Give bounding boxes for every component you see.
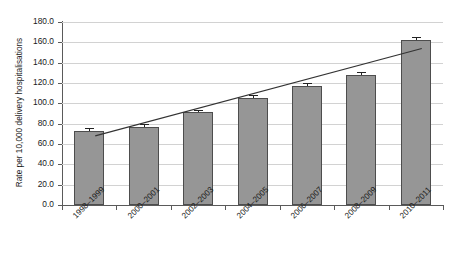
y-tick-mark xyxy=(58,185,62,186)
gridline xyxy=(62,22,443,23)
y-tick-label: 180.0 xyxy=(14,17,54,26)
x-tick-mark xyxy=(443,205,444,210)
x-tick-mark xyxy=(225,205,226,210)
x-tick-mark xyxy=(280,205,281,210)
y-tick-label: 160.0 xyxy=(14,37,54,46)
plot-area xyxy=(62,22,443,205)
error-bar-cap xyxy=(249,95,258,96)
y-tick-label: 80.0 xyxy=(14,119,54,128)
y-tick-mark xyxy=(58,124,62,125)
y-tick-label: 140.0 xyxy=(14,58,54,67)
error-bar-cap xyxy=(412,37,421,38)
chart-container: Rate per 10,000 delivery hospitalisation… xyxy=(0,0,457,262)
x-tick-mark xyxy=(389,205,390,210)
x-tick-mark xyxy=(171,205,172,210)
y-tick-mark xyxy=(58,164,62,165)
gridline xyxy=(62,63,443,64)
x-tick-mark xyxy=(62,205,63,210)
bar xyxy=(401,40,431,205)
x-tick-mark xyxy=(334,205,335,210)
x-tick-mark xyxy=(116,205,117,210)
y-tick-label: 20.0 xyxy=(14,180,54,189)
y-tick-mark xyxy=(58,144,62,145)
error-bar-cap xyxy=(140,124,149,125)
y-tick-label: 60.0 xyxy=(14,139,54,148)
y-tick-label: 120.0 xyxy=(14,78,54,87)
gridline xyxy=(62,83,443,84)
y-tick-mark xyxy=(58,83,62,84)
error-bar-cap xyxy=(85,128,94,129)
y-tick-label: 100.0 xyxy=(14,98,54,107)
y-tick-mark xyxy=(58,63,62,64)
error-bar-cap xyxy=(357,72,366,73)
y-tick-label: 40.0 xyxy=(14,159,54,168)
y-tick-mark xyxy=(58,22,62,23)
gridline xyxy=(62,42,443,43)
y-tick-label: 0.0 xyxy=(14,200,54,209)
error-bar-cap xyxy=(194,110,203,111)
y-tick-mark xyxy=(58,42,62,43)
error-bar-cap xyxy=(303,83,312,84)
y-tick-mark xyxy=(58,103,62,104)
